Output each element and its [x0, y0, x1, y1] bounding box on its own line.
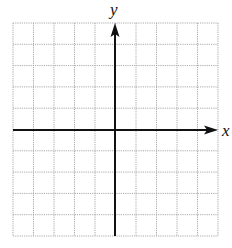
coordinate-grid-diagram: x y — [0, 0, 232, 248]
x-axis-label: x — [221, 121, 230, 140]
axes — [13, 23, 218, 236]
y-axis-label: y — [108, 0, 118, 19]
